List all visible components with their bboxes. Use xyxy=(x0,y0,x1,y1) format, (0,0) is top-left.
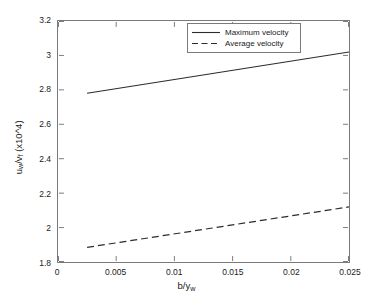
y-axis-label-scale-open: (x10 xyxy=(13,133,24,154)
legend-item-average-velocity: Average velocity xyxy=(191,38,296,49)
ytick-label-1.8: 1.8 xyxy=(18,259,51,268)
ytick-label-3.2: 3.2 xyxy=(18,16,51,25)
y-axis-tickmarks xyxy=(59,21,348,261)
plot-area: Maximum velocity Average velocity xyxy=(57,20,350,263)
series-line-maximum-velocity xyxy=(87,52,349,93)
x-axis-label-subscript: w xyxy=(190,284,195,293)
y-axis-label-den-subscript: f xyxy=(16,154,25,156)
legend-label-maximum-velocity: Maximum velocity xyxy=(225,29,289,37)
legend-box: Maximum velocity Average velocity xyxy=(187,23,301,53)
legend-label-average-velocity: Average velocity xyxy=(225,40,284,48)
y-axis-label-scale-exp: ^4 xyxy=(13,124,24,134)
x-axis-label: b/yw xyxy=(0,281,373,292)
y-axis-label-denominator: /v xyxy=(13,156,24,163)
figure-canvas: 3.2 3 2.8 2.6 2.4 2.2 2 1.8 0 0.005 0.01… xyxy=(0,0,373,306)
y-axis-label-numerator: u xyxy=(13,169,24,174)
xtick-label-0.025: 0.025 xyxy=(339,268,360,277)
xtick-label-0.01: 0.01 xyxy=(166,268,183,277)
y-axis-label-scale-close: ) xyxy=(13,120,24,123)
x-axis-label-main: b/y xyxy=(178,280,191,291)
xtick-label-0.015: 0.015 xyxy=(222,268,243,277)
xtick-label-0: 0 xyxy=(55,268,60,277)
data-series-layer xyxy=(58,21,349,262)
x-axis-tickmarks xyxy=(58,22,348,261)
series-line-average-velocity xyxy=(87,207,349,247)
ytick-label-2: 2 xyxy=(18,224,51,233)
y-axis-label: uw/vf (x10^4) xyxy=(14,92,25,202)
legend-swatch-solid-line xyxy=(191,28,221,37)
legend-swatch-dashed-line xyxy=(191,39,221,48)
xtick-label-0.02: 0.02 xyxy=(283,268,300,277)
xtick-label-0.005: 0.005 xyxy=(105,268,126,277)
y-axis-label-num-subscript: w xyxy=(16,164,25,169)
legend-item-maximum-velocity: Maximum velocity xyxy=(191,27,296,38)
ytick-label-3: 3 xyxy=(18,50,51,59)
